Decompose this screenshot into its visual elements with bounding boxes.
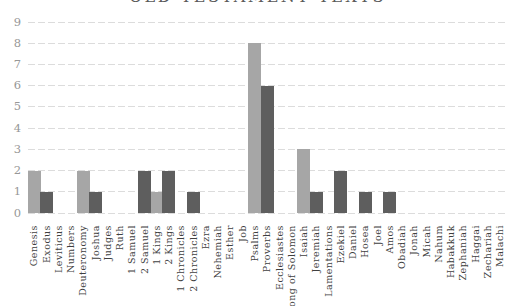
x-axis-label-text: Proverbs <box>262 225 272 272</box>
x-axis-label-text: Joel <box>373 225 383 245</box>
bar-genesis <box>28 171 41 213</box>
x-axis-label-text: Ezekiel <box>336 225 346 264</box>
bar-deuteronomy <box>77 171 90 213</box>
x-axis-label-text: Esther <box>225 225 235 260</box>
x-axis-label-text: Numbers <box>66 225 76 273</box>
gridline-7 <box>28 64 506 65</box>
x-axis-label-text: Hosea <box>360 225 370 258</box>
bar-exodus <box>40 192 53 213</box>
x-axis-label-text: Deuteronomy <box>78 225 88 296</box>
bar-joshua <box>89 192 102 213</box>
x-axis-label-text: Zechariah <box>483 225 493 278</box>
x-axis-labels: GenesisExodusLeviticusNumbersDeuteronomy… <box>28 218 506 306</box>
y-axis-tick-label-4: 4 <box>0 121 21 136</box>
y-axis-tick-label-3: 3 <box>0 142 21 157</box>
x-axis-label-text: Micah <box>422 225 432 257</box>
x-axis-label-text: Amos <box>385 225 395 253</box>
y-axis-tick-label-2: 2 <box>0 163 21 178</box>
x-axis-label-text: Jonah <box>409 225 419 255</box>
x-axis-label-text: 1 Chronicles <box>176 225 186 292</box>
bar-hosea <box>359 192 372 213</box>
x-axis-label-text: Ecclesiastes <box>275 225 285 290</box>
x-axis-label-text: Obadiah <box>397 225 407 269</box>
bar-2-samuel <box>138 171 151 213</box>
x-axis-label-text: Nahum <box>434 225 444 263</box>
bar-ezekiel <box>334 171 347 213</box>
x-axis-label-text: Haggai <box>471 225 481 263</box>
x-axis-label-text: 1 Kings <box>152 225 162 265</box>
y-axis-tick-label-6: 6 <box>0 78 21 93</box>
bar-2-kings <box>162 171 175 213</box>
y-axis: 0123456789 <box>0 0 22 306</box>
bar-proverbs <box>261 86 274 213</box>
y-axis-tick-label-8: 8 <box>0 36 21 51</box>
y-axis-tick-label-1: 1 <box>0 184 21 199</box>
x-axis-label-text: Nehemiah <box>213 225 223 279</box>
x-axis-label-text: Leviticus <box>54 225 64 273</box>
x-axis-label-text: Exodus <box>42 225 52 263</box>
y-axis-tick-label-7: 7 <box>0 57 21 72</box>
x-axis-label-text: Malachi <box>495 225 505 267</box>
x-axis-label-text: Lamentations <box>324 225 334 297</box>
x-axis-label-text: Genesis <box>29 225 39 266</box>
y-axis-tick-label-0: 0 <box>0 206 21 221</box>
plot-area <box>28 22 506 213</box>
x-axis-label-text: Isaiah <box>299 225 309 257</box>
x-axis-label-text: Joshua <box>91 225 101 260</box>
bar-jeremiah <box>310 192 323 213</box>
x-axis-label-text: Ruth <box>115 225 125 250</box>
x-axis-label-text: 1 Samuel <box>127 225 137 274</box>
bar-isaiah <box>297 149 310 213</box>
bar-1-kings <box>150 192 163 213</box>
bar-2-chronicles <box>187 192 200 213</box>
x-axis-label-text: Habakkuk <box>446 225 456 278</box>
chart-title: OLD TESTAMENT TEXTS <box>0 0 515 5</box>
bar-amos <box>383 192 396 213</box>
x-axis-label-text: Judges <box>103 225 113 261</box>
gridline-9 <box>28 22 506 23</box>
x-axis-label-text: Daniel <box>348 225 358 259</box>
x-axis-label-text: 2 Samuel <box>140 225 150 274</box>
x-axis-label-text: Ezra <box>201 225 211 249</box>
x-axis-label-text: 2 Chronicles <box>189 225 199 292</box>
bar-psalms <box>248 43 261 213</box>
x-axis-label-text: Song of Solomon <box>287 225 297 306</box>
x-axis-label-text: Zephaniah <box>458 225 468 281</box>
x-axis-label-text: Psalms <box>250 225 260 262</box>
x-axis-label-text: 2 Kings <box>164 225 174 265</box>
chart-canvas: OLD TESTAMENT TEXTS 0123456789 GenesisEx… <box>0 0 515 306</box>
x-axis-label-text: Jeremiah <box>311 225 321 272</box>
gridline-8 <box>28 43 506 44</box>
y-axis-tick-label-9: 9 <box>0 15 21 30</box>
x-axis-label-text: Job <box>238 225 248 242</box>
y-axis-tick-label-5: 5 <box>0 99 21 114</box>
